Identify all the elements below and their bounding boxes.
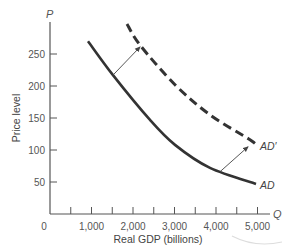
ad-curve-label: AD [259, 179, 275, 191]
y-axis-label: Price level [10, 94, 22, 142]
x-tick-label: 4,000 [203, 221, 228, 232]
axes [50, 22, 270, 214]
series [88, 24, 257, 184]
shift-arrows [113, 47, 248, 172]
y-axis-variable: P [46, 8, 54, 20]
x-tick-label: 0 [41, 221, 47, 232]
x-tick-label: 5,000 [245, 221, 270, 232]
y-ticks: 50100150200250 [28, 49, 57, 188]
y-tick-label: 200 [28, 81, 45, 92]
shift-arrow [113, 47, 140, 75]
y-tick-label: 150 [28, 113, 45, 124]
x-tick-label: 2,000 [120, 221, 145, 232]
x-axis-label: Real GDP (billions) [113, 233, 202, 245]
x-tick-label: 3,000 [162, 221, 187, 232]
x-tick-label: 1,000 [79, 221, 104, 232]
ad-prime-curve [127, 24, 258, 146]
x-ticks: 01,0002,0003,0004,0005,000 [41, 207, 270, 232]
shift-arrow [220, 147, 248, 172]
y-tick-label: 50 [34, 177, 46, 188]
x-axis-variable: Q [273, 208, 282, 220]
decorative-arc [232, 236, 282, 244]
y-tick-label: 100 [28, 145, 45, 156]
aggregate-demand-chart: P Q 50100150200250 01,0002,0003,0004,000… [0, 0, 287, 250]
ad-prime-curve-label: AD′ [259, 140, 278, 152]
y-tick-label: 250 [28, 49, 45, 60]
